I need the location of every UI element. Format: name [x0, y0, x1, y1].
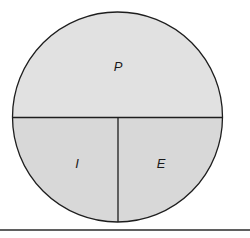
- label-e: E: [157, 156, 166, 171]
- label-p: P: [114, 59, 123, 74]
- region-bottom-fill: [0, 117, 250, 238]
- region-top-fill: [0, 0, 250, 117]
- partition-diagram: P I E: [0, 0, 250, 238]
- label-i: I: [75, 156, 79, 171]
